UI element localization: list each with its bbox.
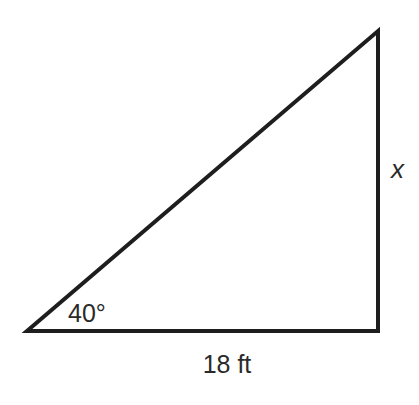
right-triangle-diagram: 40° 18 ft x: [0, 0, 419, 405]
height-variable-label: x: [389, 154, 405, 184]
base-length-label: 18 ft: [203, 350, 252, 378]
triangle: [27, 31, 378, 331]
angle-label: 40°: [68, 299, 106, 327]
